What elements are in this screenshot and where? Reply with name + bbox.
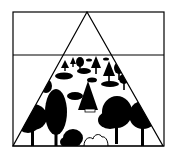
tree-icon <box>86 58 92 61</box>
forest-pyramid-illustration <box>0 0 170 152</box>
shrub-icon <box>77 68 91 74</box>
tree-icon <box>103 57 109 60</box>
rock-icon <box>85 109 95 112</box>
forest-pyramid-graphic <box>0 0 170 152</box>
shrub-icon <box>55 73 73 80</box>
shrub-icon <box>101 81 119 87</box>
shrub-icon <box>87 78 97 83</box>
shrub-icon <box>67 92 83 100</box>
